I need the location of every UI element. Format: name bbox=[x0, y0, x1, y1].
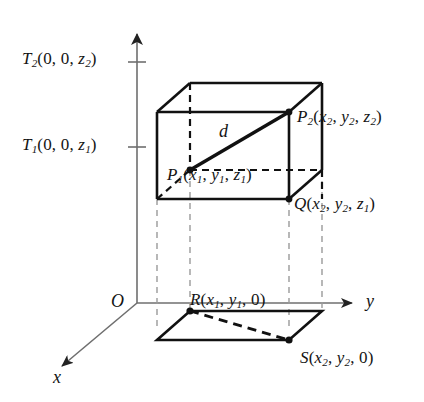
label-d: d bbox=[219, 122, 228, 140]
label-s: S(x2, y2, 0) bbox=[300, 349, 374, 368]
diagonal-d-line bbox=[190, 112, 289, 170]
label-q: Q(x2, y2, z1) bbox=[294, 195, 375, 214]
distance-formula-diagram: T2(0, 0, z2) T1(0, 0, z1) P2(x2, y2, z2)… bbox=[0, 0, 424, 402]
label-t2: T2(0, 0, z2) bbox=[22, 50, 97, 69]
label-axis-y: y bbox=[366, 292, 374, 310]
vertex-q bbox=[286, 196, 293, 203]
label-origin: O bbox=[111, 292, 124, 310]
axis-z bbox=[128, 34, 146, 303]
vertex-p2 bbox=[286, 109, 293, 116]
label-t1: T1(0, 0, z1) bbox=[22, 136, 97, 155]
label-axis-x: x bbox=[53, 368, 61, 386]
axis-x bbox=[62, 303, 137, 366]
label-r: R(x1, y1, 0) bbox=[190, 291, 266, 310]
label-p1: P1(x1, y1, z1) bbox=[167, 166, 252, 185]
label-p2: P2(x2, y2, z2) bbox=[297, 108, 382, 127]
ground-diagonal-rs bbox=[190, 311, 289, 340]
